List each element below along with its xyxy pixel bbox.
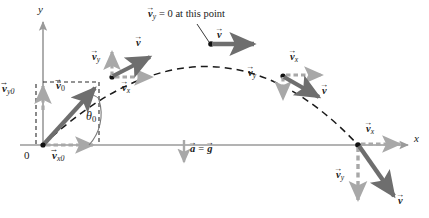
accel-a-symbol: a — [190, 144, 195, 155]
ascending-vy-label: vy — [92, 52, 100, 64]
descending-vy-label: vy — [248, 68, 256, 80]
vy0-symbol: v — [2, 83, 7, 94]
apex-annotation-subscript: y — [153, 12, 156, 21]
v0-symbol: v — [56, 80, 61, 91]
descending-cluster — [280, 73, 322, 99]
descending-v-symbol: v — [322, 86, 327, 97]
landing-vx-symbol: v — [366, 124, 371, 135]
apex-v-symbol: v — [217, 30, 222, 41]
landing-vy-subscript: y — [341, 173, 344, 182]
ascending-vx-label: vx — [122, 83, 130, 95]
landing-vx-subscript: x — [371, 127, 374, 136]
origin-label: 0 — [24, 150, 30, 161]
ascending-v-arrow — [113, 57, 150, 76]
descending-vx-subscript: x — [295, 55, 298, 64]
landing-v-symbol: v — [398, 196, 403, 207]
landing-v-arrow — [359, 146, 394, 196]
landing-vy-label: vy — [336, 170, 344, 182]
descending-v-label: v — [322, 86, 327, 97]
vx0-label: vx0 — [52, 150, 64, 163]
y-axis-label: y — [38, 4, 43, 15]
apex-annotation-vector: v — [148, 9, 153, 20]
descending-vy-subscript: y — [253, 71, 256, 80]
theta-subscript: 0 — [92, 114, 96, 124]
ascending-vy-symbol: v — [92, 52, 97, 63]
landing-vx-label: vx — [366, 124, 374, 136]
accel-equals: = — [198, 143, 204, 154]
ascending-v-label: v — [136, 38, 141, 49]
v0-subscript: 0 — [61, 84, 65, 93]
ascending-vx-symbol: v — [122, 83, 127, 94]
landing-cluster — [355, 142, 400, 200]
descending-vx-symbol: v — [290, 52, 295, 63]
landing-v-label: v — [398, 196, 403, 207]
ascending-vy-subscript: y — [97, 55, 100, 64]
theta-inner-arc — [93, 95, 99, 99]
apex-v-label: v — [217, 30, 222, 41]
vx0-symbol: v — [52, 150, 57, 161]
apex-annotation: vy= 0 at this point — [148, 9, 225, 21]
descending-v-arrow — [284, 77, 319, 97]
vx0-subscript: x0 — [57, 154, 64, 163]
descending-vx-label: vx — [290, 52, 298, 64]
axis-group — [20, 22, 408, 145]
v0-label: v0 — [56, 80, 65, 93]
descending-vy-symbol: v — [248, 68, 253, 79]
apex-cluster — [197, 24, 254, 47]
apex-annotation-text: = 0 at this point — [159, 8, 225, 19]
launch-point-dot — [40, 142, 45, 147]
theta0-label: θ0 — [86, 110, 96, 124]
figure-canvas: y x 0 vy0 v0 vx0 θ0 vy v vx v vy= 0 at t… — [0, 0, 429, 218]
ascending-vx-subscript: x — [127, 86, 130, 95]
acceleration-label: a=g — [190, 144, 212, 155]
trajectory-path — [43, 67, 358, 146]
ascending-v-symbol: v — [136, 38, 141, 49]
vy0-subscript: y0 — [7, 87, 14, 96]
landing-vy-symbol: v — [336, 170, 341, 181]
x-axis-label: x — [414, 133, 419, 144]
accel-g-symbol: g — [207, 144, 212, 155]
apex-leader-line — [197, 24, 209, 42]
ascending-cluster — [109, 52, 152, 80]
vy0-label: vy0 — [2, 83, 14, 96]
